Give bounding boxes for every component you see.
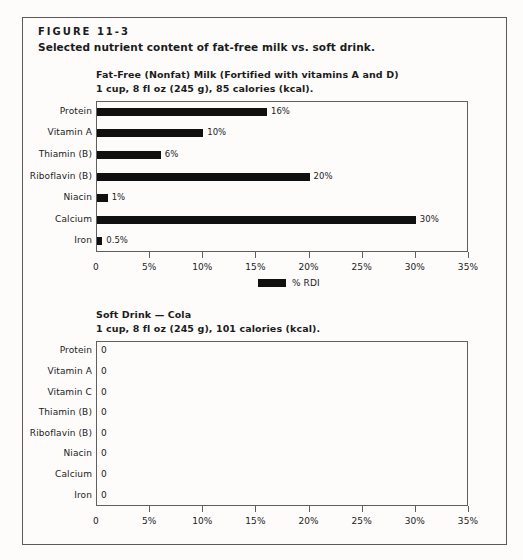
bar-value-label: 0 — [101, 388, 107, 396]
chart2-subtitle: 1 cup, 8 fl oz (245 g), 101 calories (kc… — [96, 323, 320, 334]
figure-page: FIGURE 11-3 Selected nutrient content of… — [0, 0, 523, 560]
x-tick-label: 20% — [298, 262, 318, 272]
x-tick — [468, 506, 469, 512]
bar-value-label: 10% — [207, 128, 226, 136]
chart1-legend: % RDI — [258, 278, 320, 288]
bar-value-label: 30% — [420, 215, 439, 223]
bar-value-label: 6% — [165, 150, 179, 158]
category-label: Vitamin A — [48, 366, 92, 376]
x-tick-label: 15% — [245, 262, 265, 272]
category-label: Vitamin A — [48, 127, 92, 137]
bar-value-label: 0 — [101, 408, 107, 416]
category-label: Niacin — [63, 448, 92, 458]
x-tick — [149, 506, 150, 512]
x-tick-label: 35% — [458, 262, 478, 272]
bar — [97, 129, 203, 137]
x-tick — [309, 252, 310, 258]
bar-value-label: 20% — [314, 172, 333, 180]
bar-value-label: 0 — [101, 449, 107, 457]
bar — [97, 151, 161, 159]
category-label: Calcium — [55, 469, 92, 479]
legend-label: % RDI — [292, 278, 320, 288]
bar-value-label: 1% — [112, 193, 126, 201]
bar-value-label: 0 — [101, 491, 107, 499]
x-tick — [362, 252, 363, 258]
chart2-plot-area — [96, 341, 468, 506]
x-tick — [415, 252, 416, 258]
category-label: Riboflavin (B) — [30, 428, 92, 438]
bar — [97, 108, 267, 116]
figure-number: FIGURE 11-3 — [38, 26, 130, 37]
x-tick-label: 5% — [142, 516, 156, 526]
x-tick-label: 25% — [352, 516, 372, 526]
chart1-subtitle: 1 cup, 8 fl oz (245 g), 85 calories (kca… — [96, 83, 313, 94]
chart1-category-labels: ProteinVitamin AThiamin (B)Riboflavin (B… — [2, 101, 92, 252]
bar — [97, 216, 416, 224]
bar-value-label: 0 — [101, 346, 107, 354]
x-tick-label: 25% — [352, 262, 372, 272]
legend-swatch-icon — [258, 279, 286, 287]
bar — [97, 237, 102, 245]
bar-value-label: 0 — [101, 367, 107, 375]
x-tick-label: 0 — [93, 516, 99, 526]
x-tick — [202, 506, 203, 512]
category-label: Riboflavin (B) — [30, 171, 92, 181]
bar-value-label: 0 — [101, 470, 107, 478]
category-label: Niacin — [63, 192, 92, 202]
bar-value-label: 16% — [271, 107, 290, 115]
category-label: Thiamin (B) — [39, 407, 92, 417]
x-tick — [309, 506, 310, 512]
x-tick — [362, 506, 363, 512]
category-label: Calcium — [55, 214, 92, 224]
x-tick — [255, 506, 256, 512]
x-tick — [202, 252, 203, 258]
x-tick-label: 10% — [192, 262, 212, 272]
chart2-title: Soft Drink — Cola — [96, 309, 191, 320]
x-tick — [415, 506, 416, 512]
x-tick-label: 5% — [142, 262, 156, 272]
bar — [97, 194, 108, 202]
x-tick-label: 15% — [245, 516, 265, 526]
x-tick — [468, 252, 469, 258]
x-tick-label: 10% — [192, 516, 212, 526]
x-tick-label: 35% — [458, 516, 478, 526]
x-tick-label: 30% — [405, 516, 425, 526]
chart2-category-labels: ProteinVitamin AVitamin CThiamin (B)Ribo… — [2, 341, 92, 506]
category-label: Iron — [74, 235, 92, 245]
category-label: Vitamin C — [47, 387, 92, 397]
chart1-title: Fat-Free (Nonfat) Milk (Fortified with v… — [96, 69, 399, 80]
category-label: Protein — [60, 106, 92, 116]
x-tick-label: 30% — [405, 262, 425, 272]
figure-caption: Selected nutrient content of fat-free mi… — [38, 41, 375, 53]
bar-value-label: 0.5% — [106, 236, 128, 244]
bar — [97, 173, 310, 181]
category-label: Thiamin (B) — [39, 149, 92, 159]
x-tick-label: 20% — [298, 516, 318, 526]
category-label: Iron — [74, 490, 92, 500]
x-tick-label: 0 — [93, 262, 99, 272]
x-tick — [255, 252, 256, 258]
bar-value-label: 0 — [101, 429, 107, 437]
category-label: Protein — [60, 345, 92, 355]
x-tick — [149, 252, 150, 258]
